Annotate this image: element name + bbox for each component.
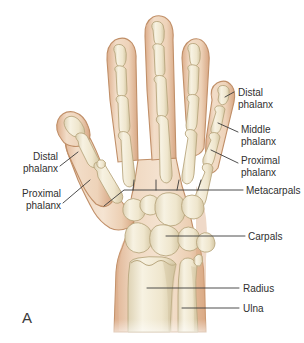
ring-middle-phalanx	[188, 65, 199, 96]
anatomy-illustration: Distal phalanx Middle phalanx Proximal p…	[0, 0, 304, 343]
label-carpals: Carpals	[248, 231, 282, 242]
label-distal-phalanx-right-line2: phalanx	[238, 99, 273, 110]
label-proximal-phalanx-left-line1: Proximal	[22, 188, 61, 199]
hand-skeleton-figure: Distal phalanx Middle phalanx Proximal p…	[0, 0, 304, 343]
label-metacarpals: Metacarpals	[246, 185, 300, 196]
label-proximal-phalanx-left-line2: phalanx	[26, 200, 61, 211]
carpal-lunate	[150, 225, 181, 256]
label-ulna: Ulna	[243, 303, 264, 314]
thumb-sesamoid-bones	[97, 160, 106, 168]
label-distal-phalanx-right-line1: Distal	[238, 87, 263, 98]
ulna-styloid-process	[194, 254, 203, 266]
panel-letter-a: A	[22, 309, 32, 326]
carpal-scaphoid	[125, 223, 152, 253]
label-proximal-phalanx-right-line2: phalanx	[241, 167, 276, 178]
carpal-capitate	[155, 193, 185, 226]
forearm-fade-overlay	[100, 280, 220, 343]
label-distal-phalanx-left-line1: Distal	[33, 151, 58, 162]
label-middle-phalanx-line2: phalanx	[241, 136, 276, 147]
carpal-hamate	[182, 195, 204, 219]
label-distal-phalanx-left-line2: phalanx	[23, 163, 58, 174]
label-proximal-phalanx-right-line1: Proximal	[241, 155, 280, 166]
label-middle-phalanx-line1: Middle	[241, 124, 271, 135]
label-radius: Radius	[243, 283, 274, 294]
